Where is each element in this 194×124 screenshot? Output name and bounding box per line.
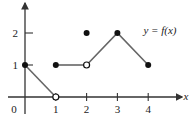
y-tick-label: 2 [13, 27, 19, 39]
closed-point [114, 30, 120, 36]
x-tick-label: 1 [53, 103, 59, 115]
x-tick-label: 3 [115, 103, 121, 115]
closed-point [22, 62, 28, 68]
ticks: 123412 [13, 27, 152, 115]
function-graph: 123412 0 x y = f(x) [0, 0, 194, 124]
closed-point [145, 62, 151, 68]
y-tick-label: 1 [13, 59, 19, 71]
closed-point [53, 62, 59, 68]
closed-point [84, 30, 90, 36]
origin-label: 0 [11, 103, 17, 115]
open-point [53, 94, 59, 100]
points [22, 30, 151, 100]
function-annotation: y = f(x) [142, 24, 176, 37]
labels: 0 x y = f(x) [11, 24, 188, 115]
open-point [84, 62, 90, 68]
x-axis-label: x [183, 90, 189, 102]
graph-segment-3 [87, 33, 149, 65]
x-tick-label: 2 [84, 103, 90, 115]
axes [8, 3, 182, 114]
x-tick-label: 4 [145, 103, 151, 115]
graph-segment-1 [25, 65, 56, 97]
